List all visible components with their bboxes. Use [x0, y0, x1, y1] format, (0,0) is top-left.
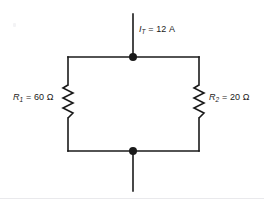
r1-subscript: 1	[20, 96, 24, 103]
top-junction-node	[129, 53, 137, 61]
resistor-r1-label: R1 = 60 Ω	[13, 93, 54, 102]
r2-unit: Ω	[243, 92, 250, 102]
circuit-schematic	[0, 0, 264, 205]
r2-value: 20	[230, 92, 240, 102]
resistor-r1-zigzag	[63, 85, 73, 118]
resistor-r2-zigzag	[194, 85, 204, 118]
current-value: 12	[156, 24, 166, 34]
page-bottom-rule	[0, 198, 264, 199]
r1-symbol: R	[13, 92, 20, 102]
current-equals: =	[146, 24, 157, 34]
resistor-r2-label: R2 = 20 Ω	[209, 93, 250, 102]
r1-unit: Ω	[47, 92, 54, 102]
current-unit: A	[169, 24, 175, 34]
circuit-diagram-figure: IT = 12 A R1 = 60 Ω R2 = 20 Ω	[0, 0, 264, 205]
current-subscript: T	[142, 28, 146, 35]
r2-symbol: R	[209, 92, 216, 102]
r2-equals: =	[219, 92, 230, 102]
total-current-label: IT = 12 A	[139, 25, 175, 34]
r1-value: 60	[34, 92, 44, 102]
r2-subscript: 2	[216, 96, 220, 103]
bottom-junction-node	[129, 147, 137, 155]
r1-equals: =	[23, 92, 34, 102]
